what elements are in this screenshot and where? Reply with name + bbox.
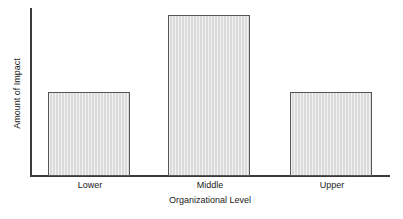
- x-tick-label-middle: Middle: [169, 180, 251, 191]
- plot-area: [30, 8, 390, 176]
- bar-lower: [48, 92, 130, 176]
- x-tick-label-upper: Upper: [291, 180, 373, 191]
- bar-middle: [168, 15, 250, 176]
- bar-chart: Lower Middle Upper Organizational Level …: [0, 0, 403, 219]
- x-axis-title: Organizational Level: [30, 195, 390, 206]
- bar-upper: [290, 92, 372, 176]
- x-tick-label-lower: Lower: [49, 180, 131, 191]
- y-axis-title: Amount of Impact: [12, 34, 23, 154]
